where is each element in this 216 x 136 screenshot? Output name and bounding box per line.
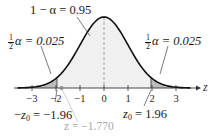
x-axis-arrow-icon: [196, 86, 201, 91]
x-tick-label: −1: [74, 94, 85, 105]
x-axis-label: z: [203, 81, 208, 93]
one-half-fraction: 12: [8, 34, 14, 51]
pos-critical-value-label: z0 = 1.96: [123, 108, 167, 122]
x-tick-label: 2: [149, 94, 154, 105]
x-tick-label: 3: [173, 94, 178, 105]
center-area-label: 1 − α = 0.95: [30, 4, 91, 17]
test-statistic-marker: [60, 86, 64, 90]
x-tick-label: −2: [50, 94, 61, 105]
one-half-fraction: 12: [145, 34, 151, 51]
x-tick-label: −3: [26, 94, 37, 105]
x-tick-label: 1: [125, 94, 130, 105]
left-tail-label: 12α = 0.025: [8, 34, 64, 51]
test-statistic-label: z = −1.770: [64, 121, 114, 133]
center-label-leader: [77, 17, 90, 36]
right-tail-label: 12α = 0.025: [145, 34, 201, 51]
x-tick-label: 0: [101, 94, 106, 105]
